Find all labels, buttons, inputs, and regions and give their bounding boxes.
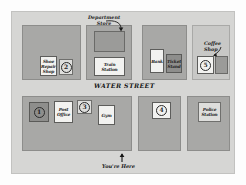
- department-store-arrow-icon: [104, 19, 126, 35]
- you-are-here-label: You're Here: [102, 163, 135, 169]
- building-1-number: 1: [34, 107, 45, 118]
- block-north-east[interactable]: Bank Ticket Stand: [142, 25, 187, 80]
- building-4-number: 4: [156, 105, 167, 116]
- water-street-text: WATER STREET: [94, 82, 155, 89]
- building-post-office[interactable]: Post Office: [54, 101, 73, 123]
- block-southeast[interactable]: Police Station: [187, 96, 230, 151]
- block-southwest[interactable]: 1 Post Office 3 Gym: [22, 96, 132, 151]
- block-northwest[interactable]: Shoe Repair Shop 2: [22, 25, 81, 80]
- building-1[interactable]: 1: [29, 102, 49, 122]
- post-office-label: Post Office: [57, 107, 70, 117]
- building-train-station[interactable]: Train Station: [94, 57, 125, 76]
- you-are-here-text: You're Here: [102, 163, 135, 169]
- building-2[interactable]: 2: [59, 59, 73, 75]
- police-station-label: Police Station: [201, 107, 217, 117]
- building-5-number: 5: [200, 60, 211, 71]
- map-panel: Shoe Repair Shop 2 Train Station Bank Ti…: [11, 11, 235, 174]
- train-station-label: Train Station: [101, 62, 117, 72]
- building-ticket-stand[interactable]: Ticket Stand: [166, 54, 182, 73]
- building-police-station[interactable]: Police Station: [198, 102, 221, 122]
- street-name-label: WATER STREET: [94, 82, 155, 89]
- gym-label: Gym: [101, 113, 111, 118]
- building-4[interactable]: 4: [152, 102, 171, 119]
- building-gym[interactable]: Gym: [98, 105, 115, 125]
- building-2-number: 2: [61, 62, 72, 73]
- you-are-here-arrow-icon: [117, 153, 127, 163]
- coffee-shop-arrow-icon: [210, 45, 224, 59]
- building-shoe-repair-shop[interactable]: Shoe Repair Shop: [40, 56, 57, 76]
- building-bank[interactable]: Bank: [150, 49, 164, 73]
- bank-label: Bank: [151, 59, 163, 64]
- block-south-central[interactable]: 4: [138, 96, 181, 151]
- ticket-stand-label: Ticket Stand: [167, 59, 181, 69]
- building-3-number: 3: [79, 102, 90, 113]
- town-map: Shoe Repair Shop 2 Train Station Bank Ti…: [0, 0, 246, 185]
- shoe-repair-shop-label: Shoe Repair Shop: [41, 59, 56, 74]
- building-3[interactable]: 3: [77, 100, 92, 114]
